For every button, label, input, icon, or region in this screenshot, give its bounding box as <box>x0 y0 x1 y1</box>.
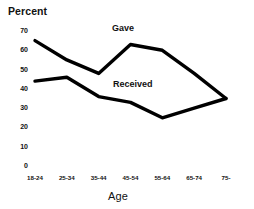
y-tick-10: 10 <box>12 143 28 151</box>
y-tick-0: 0 <box>12 162 28 170</box>
series-annotation-received: Received <box>113 79 153 89</box>
y-tick-20: 20 <box>12 123 28 131</box>
x-tick-35-44: 35-44 <box>82 174 116 182</box>
series-line-gave <box>35 41 226 99</box>
x-tick-18-24: 18-24 <box>18 174 52 182</box>
x-tick-75-: 75- <box>209 174 243 182</box>
x-tick-65-74: 65-74 <box>177 174 211 182</box>
x-tick-25-34: 25-34 <box>50 174 84 182</box>
series-annotation-gave: Gave <box>112 23 134 33</box>
chart-container: Percent Age 706050403020100 18-2425-3435… <box>0 0 254 209</box>
y-tick-60: 60 <box>12 46 28 54</box>
y-tick-30: 30 <box>12 104 28 112</box>
y-tick-50: 50 <box>12 66 28 74</box>
x-tick-45-54: 45-54 <box>114 174 148 182</box>
y-axis-title: Percent <box>8 5 47 17</box>
x-tick-55-64: 55-64 <box>145 174 179 182</box>
y-tick-40: 40 <box>12 85 28 93</box>
x-axis-title: Age <box>108 190 128 202</box>
y-tick-70: 70 <box>12 27 28 35</box>
